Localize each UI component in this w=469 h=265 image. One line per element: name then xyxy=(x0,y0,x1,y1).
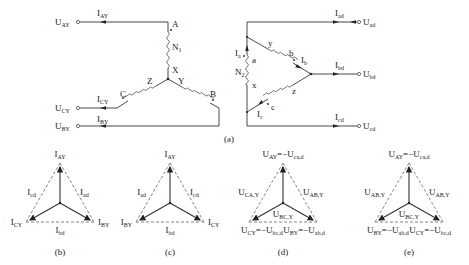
edge-label-left: Iad xyxy=(137,187,146,198)
label-n1: N1 xyxy=(172,42,182,53)
label-i-by: IBY xyxy=(97,114,109,125)
edge-label-right: Iad xyxy=(80,187,89,198)
edge-label-bottom: Ibd xyxy=(166,225,175,236)
caption-a: (a) xyxy=(224,134,234,144)
label-u-ad: Uad xyxy=(363,17,375,28)
label-i-cd: Icd xyxy=(335,112,344,123)
caption-d: (d) xyxy=(278,247,289,257)
edge-label-bottom: UBC,Y xyxy=(399,209,420,220)
node-X: X xyxy=(172,65,179,75)
phasor-label-top: IAY xyxy=(54,149,66,160)
phasor-origin xyxy=(59,202,61,204)
phasor-label-top: IAY xyxy=(164,149,176,160)
arrow-i-bd xyxy=(333,72,339,76)
coil-n1 xyxy=(167,32,170,68)
coil-zc xyxy=(263,85,293,95)
terminal-cd xyxy=(357,124,360,127)
node-Z: Z xyxy=(147,76,153,86)
terminal-ay xyxy=(76,20,79,23)
phasor-label-left: IBY xyxy=(121,217,133,228)
label-i-ay: IAY xyxy=(97,8,109,19)
terminal-cy xyxy=(76,106,79,109)
caption-c: (c) xyxy=(165,247,175,257)
edge-label-right: UAB,Y xyxy=(303,187,324,198)
coil-yb xyxy=(268,49,298,59)
node-x: x xyxy=(252,80,257,90)
edge-label-bottom: UBC,Y xyxy=(273,209,294,220)
phasor-label-left: UBY=−Uab,d xyxy=(367,225,409,236)
arrow-i-ay xyxy=(100,20,106,24)
label-u-cd: Ucd xyxy=(363,121,375,132)
node-z: z xyxy=(292,86,296,96)
node-a: a xyxy=(252,55,256,65)
label-u-bd: Ubd xyxy=(363,69,376,80)
phasor-origin xyxy=(169,202,171,204)
arrow-i-cy xyxy=(100,106,106,110)
label-u-by: UBY xyxy=(55,121,71,132)
phasor-right xyxy=(60,203,90,220)
label-u-ay: UAY xyxy=(55,17,70,28)
caption-e: (e) xyxy=(404,247,414,257)
node-C: C xyxy=(120,89,126,99)
phasor-origin xyxy=(282,202,284,204)
arrow-i-ad xyxy=(333,20,339,24)
edge-label-right: UAB,Y xyxy=(429,187,450,198)
edge-label-right: Icd xyxy=(190,187,199,198)
phasor-diagrams: IAYICYIBYIcdIadIbd(b)IAYIBYICYIadIcdIbd(… xyxy=(11,149,451,257)
phasor-left xyxy=(140,203,170,220)
node-c: c xyxy=(271,102,275,112)
terminal-bd xyxy=(357,72,360,75)
node-y: y xyxy=(268,38,273,48)
secondary-delta-winding: Iad Uad Ibd Ubd Icd Ucd Ia a N2 x y b Ib… xyxy=(235,8,376,132)
label-i-c: Ic xyxy=(257,109,263,120)
label-u-cy: UCY xyxy=(55,103,71,114)
phasor-label-left: ICY xyxy=(11,217,23,228)
label-n2: N2 xyxy=(235,67,245,78)
node-B: B xyxy=(210,89,216,99)
node-A: A xyxy=(172,19,179,29)
coil-z xyxy=(124,86,156,98)
transformer-diagram: UAY IAY UCY ICY UBY IBY A N1 X Z Y C B xyxy=(0,0,469,265)
edge-label-bottom: Ibd xyxy=(56,225,65,236)
label-i-ad: Iad xyxy=(335,8,344,19)
edge-label-left: UCA,Y xyxy=(238,187,259,198)
phasor-label-left: UCY=−Ubc,d xyxy=(241,225,283,236)
label-i-cy: ICY xyxy=(97,94,109,105)
primary-star-winding: UAY IAY UCY ICY UBY IBY A N1 X Z Y C B xyxy=(55,8,219,132)
edge-label-left: UAB,Y xyxy=(364,187,385,198)
phasor-label-top: UAY=−Uca,d xyxy=(262,149,303,160)
node-b: b xyxy=(289,48,294,58)
phasor-label-right: UBY=−Uab,d xyxy=(283,225,325,236)
node-Y: Y xyxy=(178,76,185,86)
label-i-b: Ib xyxy=(301,55,307,66)
caption-b: (b) xyxy=(55,247,66,257)
phasor-left xyxy=(30,203,60,220)
phasor-origin xyxy=(408,202,410,204)
phasor-label-top: UAY=−Uca,d xyxy=(388,149,429,160)
phasor-label-right: UCY=−Ubc,d xyxy=(409,225,451,236)
phasor-label-right: ICY xyxy=(208,217,220,228)
arrow-i-cd xyxy=(333,124,339,128)
edge-label-left: Icd xyxy=(27,187,36,198)
phasor-label-right: IBY xyxy=(98,217,110,228)
label-i-a: Ia xyxy=(235,48,241,59)
label-i-bd: Ibd xyxy=(335,60,344,71)
terminal-ad xyxy=(357,20,360,23)
arrow-i-c xyxy=(258,100,263,105)
phasor-right xyxy=(170,203,200,220)
arrow-i-a xyxy=(245,45,249,51)
terminal-by xyxy=(76,124,79,127)
